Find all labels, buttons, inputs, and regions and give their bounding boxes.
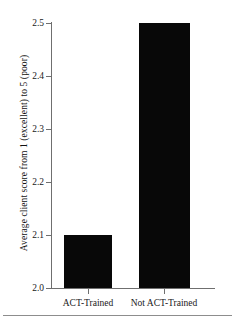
y-tick-label-2-5: 2.5 <box>22 18 44 28</box>
y-axis-line <box>51 22 52 289</box>
y-tick-label-2-5-wrap: 2.5 <box>20 18 44 28</box>
x-tick-mark-act-trained <box>88 289 89 294</box>
y-tick-label-2-3-wrap: 2.3 <box>20 124 44 134</box>
y-tick-label-2-1-wrap: 2.1 <box>20 230 44 240</box>
x-tick-label-act-trained: ACT-Trained <box>50 297 126 309</box>
y-tick-label-2-0-wrap: 2.0 <box>20 283 44 293</box>
y-axis-title: Average client score from 1 (excellent) … <box>16 8 32 298</box>
y-tick-label-2-1: 2.1 <box>22 230 44 240</box>
figure-separator-rule <box>3 315 232 316</box>
bar-chart-figure: Average client score from 1 (excellent) … <box>0 0 235 322</box>
bar-act-trained[interactable] <box>64 235 112 288</box>
y-tick-label-2-0: 2.0 <box>22 283 44 293</box>
x-axis-line <box>51 288 215 289</box>
y-tick-label-2-4-wrap: 2.4 <box>20 71 44 81</box>
x-tick-label-not-act-trained: Not ACT-Trained <box>116 297 212 309</box>
y-tick-label-2-2: 2.2 <box>22 177 44 187</box>
y-tick-label-2-2-wrap: 2.2 <box>20 177 44 187</box>
y-tick-label-2-3: 2.3 <box>22 124 44 134</box>
x-tick-mark-not-act-trained <box>164 289 165 294</box>
bar-not-act-trained[interactable] <box>139 23 190 288</box>
y-tick-label-2-4: 2.4 <box>22 71 44 81</box>
